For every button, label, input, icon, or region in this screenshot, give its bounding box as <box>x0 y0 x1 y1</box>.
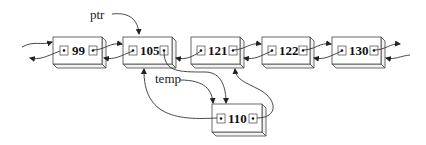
list-node-99: 99 <box>53 37 106 68</box>
ptr-label: ptr <box>90 7 105 22</box>
list-node-130: 130 <box>332 37 385 68</box>
new-node-110: 110 <box>212 104 266 136</box>
node-value: 105 <box>140 43 160 58</box>
temp-pointer: temp <box>155 71 213 103</box>
ptr-pointer: ptr <box>90 7 139 34</box>
node-value: 130 <box>349 43 369 58</box>
list-node-122: 122 <box>262 37 314 68</box>
linked-list-diagram: ptr 99 105 121 <box>0 0 426 145</box>
temp-label: temp <box>155 71 181 86</box>
node-value: 122 <box>279 43 299 58</box>
list-node-105: 105 <box>123 37 176 68</box>
node-value: 121 <box>208 43 228 58</box>
node-value: 110 <box>228 111 247 126</box>
node-value: 99 <box>72 43 86 58</box>
